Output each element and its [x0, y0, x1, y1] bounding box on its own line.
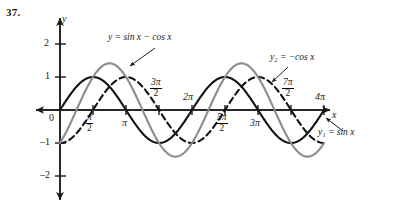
x-tick-label-3pi-over-2: 3π 2 [150, 78, 162, 98]
frac-denominator: 2 [150, 89, 162, 99]
x-tick-label-4pi: 4π [315, 92, 325, 102]
x-tick-label-7pi-over-2: 7π 2 [282, 78, 294, 98]
frac-denominator: 2 [282, 89, 294, 99]
x-tick-label-pi-over-2: π 2 [86, 113, 93, 133]
x-tick-label-5pi-over-2: 5π 2 [216, 113, 228, 133]
y-tick-label-2: 2 [44, 38, 49, 48]
frac-denominator: 2 [216, 124, 228, 134]
y-tick-label-neg2: –2 [40, 170, 50, 180]
curve-label-sum: y = sin x − cos x [108, 33, 171, 43]
curve-label-sin: y₁ = sin x [318, 128, 354, 138]
figure-container: 37. [0, 0, 394, 218]
curve-label-neg-cos: y₂ = −cos x [270, 53, 314, 63]
annotation-arrow-sum [130, 48, 155, 66]
y-tick-label-1: 1 [45, 71, 50, 81]
x-tick-label-3pi: 3π [250, 118, 260, 128]
origin-label: 0 [49, 113, 54, 123]
y-tick-label-neg1: –1 [40, 137, 50, 147]
x-tick-label-pi: π [122, 118, 127, 128]
x-axis-label: x [332, 110, 336, 120]
y-axis-label: y [62, 14, 66, 24]
axis-lines [36, 18, 330, 200]
frac-denominator: 2 [86, 124, 93, 134]
x-tick-label-2pi: 2π [183, 92, 193, 102]
